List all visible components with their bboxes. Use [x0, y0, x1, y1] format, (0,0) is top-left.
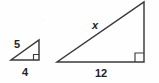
small-triangle-hypotenuse-label: 5: [14, 39, 20, 50]
large-triangle-base-label: 12: [95, 68, 107, 79]
large-triangle-outline: [57, 2, 144, 62]
geometry-figure: 5 4 x 12: [0, 0, 159, 83]
large-triangle: [57, 2, 144, 62]
small-triangle-right-angle-icon: [34, 55, 40, 61]
large-triangle-right-angle-icon: [135, 53, 144, 62]
large-triangle-hypotenuse-label: x: [92, 20, 98, 31]
small-triangle-base-label: 4: [22, 67, 28, 78]
